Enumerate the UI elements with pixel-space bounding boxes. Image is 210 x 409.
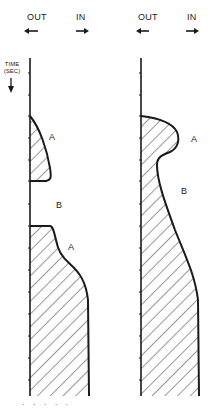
left-region-label-a-lower: A bbox=[68, 242, 74, 252]
left-region-label-b: B bbox=[56, 200, 62, 210]
time-label-line2: (SEC) bbox=[1, 68, 23, 75]
flow-diagram bbox=[0, 0, 210, 409]
left-out-arrow-icon bbox=[24, 28, 38, 34]
left-out-label: OUT bbox=[27, 12, 47, 22]
left-region-label-a-upper: A bbox=[49, 132, 55, 142]
time-axis-label: TIME (SEC) bbox=[1, 61, 23, 75]
right-in-arrow-icon bbox=[186, 28, 199, 34]
caption-partial: · · · · · bbox=[22, 400, 71, 409]
time-label-line1: TIME bbox=[1, 61, 23, 68]
left-in-arrow-icon bbox=[76, 28, 89, 34]
time-down-arrow-icon bbox=[8, 78, 14, 93]
left-region-a-upper bbox=[30, 116, 51, 181]
right-out-label: OUT bbox=[138, 12, 158, 22]
left-in-label: IN bbox=[76, 12, 85, 22]
right-in-label: IN bbox=[187, 12, 196, 22]
right-region-flow bbox=[141, 116, 199, 396]
right-region-label-b: B bbox=[181, 186, 187, 196]
right-region-label-a: A bbox=[191, 134, 197, 144]
right-out-arrow-icon bbox=[136, 28, 149, 34]
